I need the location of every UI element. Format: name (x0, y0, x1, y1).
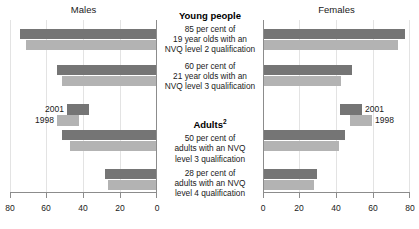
bar-females-1998-adults-l4 (264, 180, 314, 190)
annotation-line: level 3 qualification (160, 154, 260, 164)
bar-males-1998-young-l2 (26, 40, 156, 50)
chart-container: Males Females 80 60 40 20 0 (0, 0, 419, 229)
bar-males-2001-adults-l3 (62, 130, 156, 140)
panel-title-males: Males (10, 4, 157, 15)
legend-item-2001: 2001 (32, 104, 89, 115)
legend-swatch-2001 (340, 104, 362, 115)
axis-tick-label-left: 80 (0, 203, 23, 213)
bar-females-2001-young-l2 (264, 29, 405, 39)
axis-tick-label-right: 80 (397, 203, 419, 213)
legend-label-1998: 1998 (22, 115, 57, 126)
group-heading-adults: Adults2 (160, 116, 260, 130)
axis-tick (373, 193, 374, 198)
bar-males-2001-young-l2 (20, 29, 156, 39)
axis-tick (156, 193, 157, 198)
annotation-line: 50 per cent of (160, 133, 260, 143)
group-heading-text: Adults (193, 119, 223, 130)
group-young-people: Young people 85 per cent of 19 year olds… (160, 10, 260, 91)
footnote-marker: 2 (223, 118, 227, 125)
annotation-young-l2: 85 per cent of 19 year olds with an NVQ … (160, 24, 260, 55)
axis-tick-label-right: 20 (286, 203, 312, 213)
zero-axis-line (156, 20, 157, 193)
annotation-line: adults with an NVQ (160, 178, 260, 188)
annotation-line: 85 per cent of (160, 24, 260, 34)
bar-females-2001-adults-l4 (264, 169, 317, 179)
bar-males-2001-adults-l4 (105, 169, 156, 179)
annotation-young-l3: 60 per cent of 21 year olds with an NVQ … (160, 61, 260, 92)
axis-tick (336, 193, 337, 198)
axis-tick (83, 193, 84, 198)
axis-tick-label-right: 40 (323, 203, 349, 213)
bar-males-1998-young-l3 (62, 76, 156, 86)
axis-tick-label-left: 60 (33, 203, 59, 213)
axis-tick-label-left: 40 (70, 203, 96, 213)
annotation-adults-l4: 28 per cent of adults with an NVQ level … (160, 168, 260, 199)
bar-males-2001-young-l3 (57, 65, 156, 75)
legend-males: 2001 1998 (22, 104, 89, 126)
annotation-line: NVQ level 2 qualification (160, 44, 260, 54)
annotation-line: 19 year olds with an (160, 34, 260, 44)
annotation-line: 60 per cent of (160, 61, 260, 71)
axis-tick-label-left: 20 (107, 203, 133, 213)
gridline (10, 20, 11, 193)
bar-females-2001-young-l3 (264, 65, 352, 75)
legend-item-1998: 1998 (22, 115, 89, 126)
axis-tick (10, 193, 11, 198)
group-adults: Adults2 50 per cent of adults with an NV… (160, 116, 260, 198)
bar-females-1998-young-l3 (264, 76, 341, 86)
legend-swatch-1998 (57, 115, 79, 126)
legend-label-2001: 2001 (362, 104, 397, 115)
legend-swatch-2001 (67, 104, 89, 115)
axis-tick (263, 193, 264, 198)
axis-tick (120, 193, 121, 198)
bar-females-2001-adults-l3 (264, 130, 345, 140)
annotation-line: 28 per cent of (160, 168, 260, 178)
legend-label-2001: 2001 (32, 104, 67, 115)
annotation-line: 21 year olds with an (160, 71, 260, 81)
annotation-line: level 4 qualification (160, 188, 260, 198)
legend-females: 2001 1998 (340, 104, 407, 126)
annotation-line: NVQ level 3 qualification (160, 81, 260, 91)
axis-tick (46, 193, 47, 198)
annotation-line: adults with an NVQ (160, 143, 260, 153)
panel-title-females: Females (263, 4, 410, 15)
legend-item-1998: 1998 (350, 115, 407, 126)
group-heading-young-people: Young people (160, 10, 260, 21)
bar-females-1998-young-l2 (264, 40, 398, 50)
legend-item-2001: 2001 (340, 104, 407, 115)
center-annotation-column: Young people 85 per cent of 19 year olds… (160, 0, 260, 229)
axis-tick (409, 193, 410, 198)
axis-tick (299, 193, 300, 198)
annotation-adults-l3: 50 per cent of adults with an NVQ level … (160, 133, 260, 164)
bar-males-1998-adults-l3 (70, 141, 156, 151)
gridline (409, 20, 410, 193)
legend-label-1998: 1998 (372, 115, 407, 126)
legend-swatch-1998 (350, 115, 372, 126)
bar-males-1998-adults-l4 (108, 180, 156, 190)
bar-females-1998-adults-l3 (264, 141, 339, 151)
axis-tick-label-right: 60 (360, 203, 386, 213)
group-heading-text: Young people (179, 10, 241, 21)
